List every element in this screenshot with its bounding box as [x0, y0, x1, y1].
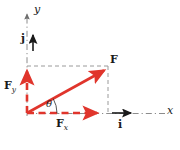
x-axis-label: x	[167, 105, 173, 116]
vector-fx-label-base: F	[56, 117, 64, 130]
angle-theta-arc	[53, 99, 57, 113]
vector-f-arrow	[27, 71, 104, 114]
unit-vector-i-label: i	[118, 119, 122, 130]
vector-decomposition-figure: y x j i F Fx Fy θ	[0, 0, 180, 150]
angle-theta-label: θ	[46, 99, 52, 109]
unit-vector-j-label: j	[21, 33, 25, 44]
y-axis-label: y	[34, 4, 40, 15]
figure-canvas	[0, 0, 180, 150]
vector-fy-label-subscript: y	[12, 85, 16, 94]
vector-f-label: F	[110, 54, 118, 65]
vector-fy-label-base: F	[4, 79, 12, 92]
vector-fx-label: Fx	[56, 118, 68, 132]
vector-fx-label-subscript: x	[64, 123, 68, 132]
vector-fy-label: Fy	[4, 80, 16, 94]
